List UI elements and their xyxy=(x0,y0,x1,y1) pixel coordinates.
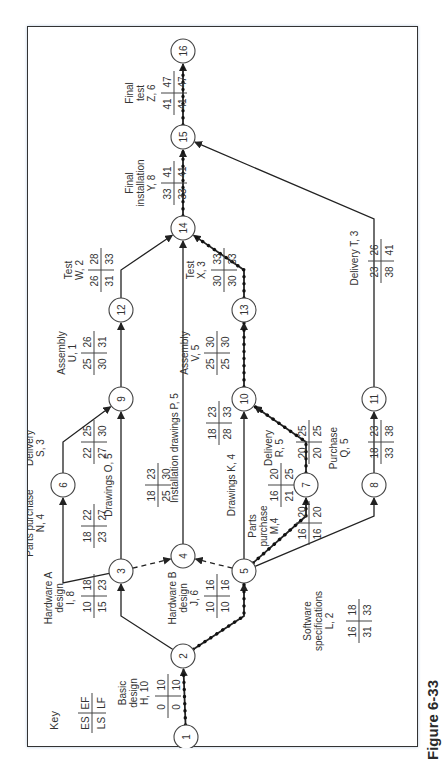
early-finish: 26 xyxy=(82,336,93,348)
early-finish: 26 xyxy=(369,244,380,256)
key-cell: LF xyxy=(96,697,107,709)
activity-label: Final xyxy=(124,82,135,104)
early-start: 10 xyxy=(82,601,93,613)
activity-arrow xyxy=(196,559,233,568)
activity-label: Drawings K, 4 xyxy=(226,453,237,516)
activity-label: Z, 6 xyxy=(146,84,157,102)
activity-label: N, 4 xyxy=(35,513,46,532)
activity-label: Delivery T, 3 xyxy=(349,230,360,285)
svg-text:3: 3 xyxy=(116,568,127,574)
late-start: 25 xyxy=(220,358,231,370)
late-start: 41 xyxy=(177,98,188,110)
early-start: 0 xyxy=(156,704,167,710)
activity-label: Delivery xyxy=(263,430,274,466)
activity-label: Delivery xyxy=(28,430,35,466)
activity-arrow xyxy=(195,142,374,387)
activity-label: S, 3 xyxy=(35,439,46,457)
early-start: 10 xyxy=(205,601,216,613)
early-start: 18 xyxy=(207,428,218,440)
activity-arrow xyxy=(121,235,172,298)
late-start: 27 xyxy=(97,447,108,459)
early-start: 23 xyxy=(369,266,380,278)
event-nodes: 12345678910111213141516 xyxy=(51,39,386,748)
activity-label: design xyxy=(178,583,189,612)
time-box: 10161016 xyxy=(204,574,231,618)
pert-network: 12345678910111213141516 BasicdesignH, 10… xyxy=(28,27,419,748)
network-diagram-rotated: 12345678910111213141516 BasicdesignH, 10… xyxy=(28,27,419,748)
late-finish: 20 xyxy=(312,506,323,518)
activity-label: H, 10 xyxy=(139,681,150,705)
activity-arrow xyxy=(121,584,173,649)
svg-text:15: 15 xyxy=(178,131,189,143)
early-start: 16 xyxy=(297,528,308,540)
early-finish: 23 xyxy=(146,468,157,480)
late-start: 25 xyxy=(161,490,172,502)
early-start: 30 xyxy=(212,275,223,287)
late-start: 15 xyxy=(97,601,108,613)
svg-text:12: 12 xyxy=(116,304,127,316)
late-finish: 33 xyxy=(227,253,238,265)
key-cell: ES xyxy=(80,716,91,730)
time-box: 25263031 xyxy=(81,331,108,375)
early-finish: 10 xyxy=(156,679,167,691)
early-finish: 33 xyxy=(212,253,223,265)
early-start: 18 xyxy=(146,490,157,502)
activity-label: test xyxy=(135,85,146,101)
event-node-8: 8 xyxy=(362,473,386,497)
network-diagram-frame: 12345678910111213141516 BasicdesignH, 10… xyxy=(27,26,418,747)
early-start: 25 xyxy=(82,358,93,370)
late-start: 33 xyxy=(177,188,188,200)
activity-label: purchase xyxy=(258,505,269,547)
activity-label: Test xyxy=(63,261,74,280)
late-finish: 25 xyxy=(284,468,295,480)
svg-text:9: 9 xyxy=(116,396,127,402)
event-node-16: 16 xyxy=(171,39,195,63)
late-finish: 41 xyxy=(177,166,188,178)
time-box: 30333033 xyxy=(211,248,238,292)
late-finish: 30 xyxy=(161,468,172,480)
late-finish: 33 xyxy=(362,604,373,616)
early-finish: 41 xyxy=(162,166,173,178)
event-node-11: 11 xyxy=(362,387,386,411)
time-box: 18222327 xyxy=(81,504,108,548)
early-finish: 20 xyxy=(269,468,280,480)
svg-text:16: 16 xyxy=(178,45,189,57)
late-finish: 41 xyxy=(384,244,395,256)
late-finish: 23 xyxy=(97,579,108,591)
activity-label: design xyxy=(128,678,139,707)
early-start: 22 xyxy=(82,447,93,459)
early-finish: 25 xyxy=(82,425,93,437)
activity-label: design xyxy=(54,583,65,612)
early-finish: 30 xyxy=(205,336,216,348)
early-start: 16 xyxy=(347,626,358,638)
activity-label: Drawings O, 5 xyxy=(103,453,114,517)
late-start: 21 xyxy=(284,490,295,502)
event-node-3: 3 xyxy=(109,559,133,583)
activity-label: Final xyxy=(124,172,135,194)
svg-text:4: 4 xyxy=(178,553,189,559)
early-finish: 23 xyxy=(369,425,380,437)
time-box: 16183133 xyxy=(346,599,373,643)
late-finish: 25 xyxy=(312,425,323,437)
event-node-12: 12 xyxy=(109,298,133,322)
activity-label: specifications xyxy=(313,591,324,651)
early-finish: 28 xyxy=(89,253,100,265)
figure-caption: Figure 6-33 xyxy=(424,680,441,760)
key-title: Key xyxy=(48,711,60,730)
event-node-14: 14 xyxy=(171,216,195,240)
svg-text:8: 8 xyxy=(369,482,380,488)
activity-label: L, 2 xyxy=(324,612,335,629)
time-box: 41474147 xyxy=(161,71,188,115)
early-start: 33 xyxy=(162,188,173,200)
early-start: 26 xyxy=(89,275,100,287)
key-cell: EF xyxy=(80,697,91,710)
early-finish: 18 xyxy=(82,579,93,591)
late-start: 0 xyxy=(171,704,182,710)
early-finish: 47 xyxy=(162,76,173,88)
event-node-2: 2 xyxy=(171,644,195,668)
late-start: 38 xyxy=(384,266,395,278)
late-finish: 16 xyxy=(220,579,231,591)
svg-text:7: 7 xyxy=(301,482,312,488)
early-finish: 16 xyxy=(205,579,216,591)
activity-label: Basic xyxy=(117,681,128,705)
